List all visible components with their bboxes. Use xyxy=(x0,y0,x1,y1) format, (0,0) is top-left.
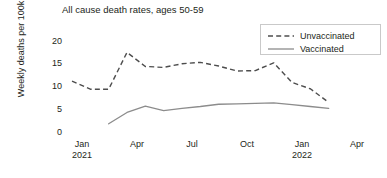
chart-legend: Unvaccinated Vaccinated xyxy=(260,24,381,55)
series-line-vaccinated xyxy=(109,103,329,124)
legend-label: Vaccinated xyxy=(300,44,344,54)
legend-item-vaccinated: Vaccinated xyxy=(268,42,344,55)
solid-line-icon xyxy=(268,45,294,53)
dashed-line-icon xyxy=(268,32,294,40)
legend-label: Unvaccinated xyxy=(300,31,355,41)
series-line-unvaccinated xyxy=(72,52,329,102)
chart-container: All cause death rates, ages 50-59 Weekly… xyxy=(0,0,387,178)
legend-item-unvaccinated: Unvaccinated xyxy=(268,29,355,42)
